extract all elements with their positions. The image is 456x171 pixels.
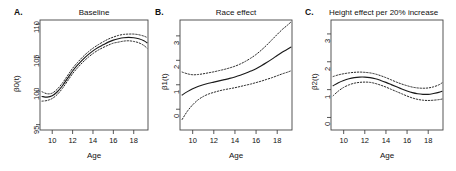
- y-tick-label: 3: [323, 39, 332, 43]
- x-tick-label: 16: [397, 136, 417, 145]
- curve-lower-95-ci: [182, 71, 291, 120]
- y-tick-label: 0: [323, 122, 332, 126]
- y-tick-label: 110: [32, 21, 41, 33]
- y-tick-label: 1: [172, 90, 181, 94]
- x-tick-label: 12: [355, 136, 375, 145]
- x-tick-label: 16: [103, 136, 123, 145]
- x-tick-label: 10: [42, 136, 62, 145]
- plot-area-b: [150, 0, 303, 171]
- y-axis-label-c: β2(t): [310, 73, 319, 90]
- y-tick-label: 3: [172, 41, 181, 45]
- plot-area-a: [0, 0, 152, 171]
- x-axis-label-b: Age: [180, 151, 292, 160]
- y-tick-label: 2: [172, 65, 181, 69]
- x-tick-label: 10: [334, 136, 354, 145]
- curve-upper-95-ci: [333, 72, 442, 88]
- x-axis-label-a: Age: [40, 151, 148, 160]
- x-tick-label: 18: [267, 136, 287, 145]
- x-tick-label: 14: [225, 136, 245, 145]
- x-axis-label-c: Age: [331, 151, 443, 160]
- curve-upper-95-ci: [42, 34, 147, 94]
- x-tick-label: 16: [246, 136, 266, 145]
- x-tick-label: 14: [83, 136, 103, 145]
- y-axis-label-a: β0(t): [12, 75, 21, 92]
- x-tick-label: 18: [124, 136, 144, 145]
- y-tick-label: 2: [323, 67, 332, 71]
- panel-baseline: A. Baseline β0(t) Age 951001051101012141…: [0, 0, 152, 171]
- plot-area-c: [301, 0, 456, 171]
- y-tick-label: 100: [32, 88, 41, 101]
- curve-lower-95-ci: [333, 82, 442, 100]
- y-tick-label: 95: [32, 125, 41, 133]
- panel-height-effect: C. Height effect per 20% increase β2(t) …: [301, 0, 456, 171]
- y-tick-label: 0: [172, 114, 181, 118]
- x-tick-label: 10: [183, 136, 203, 145]
- curve-upper-95-ci: [182, 22, 291, 75]
- y-tick-label: 1: [323, 94, 332, 98]
- curve-estimate: [182, 47, 291, 95]
- x-tick-label: 14: [376, 136, 396, 145]
- curve-estimate: [333, 77, 442, 94]
- x-tick-label: 12: [63, 136, 83, 145]
- x-tick-label: 18: [418, 136, 438, 145]
- x-tick-label: 12: [204, 136, 224, 145]
- y-tick-label: 105: [32, 54, 41, 67]
- panel-race-effect: B. Race effect β1(t) Age 01231012141618: [150, 0, 303, 171]
- figure-panel-group: A. Baseline β0(t) Age 951001051101012141…: [0, 0, 456, 171]
- y-axis-label-b: β1(t): [160, 73, 169, 90]
